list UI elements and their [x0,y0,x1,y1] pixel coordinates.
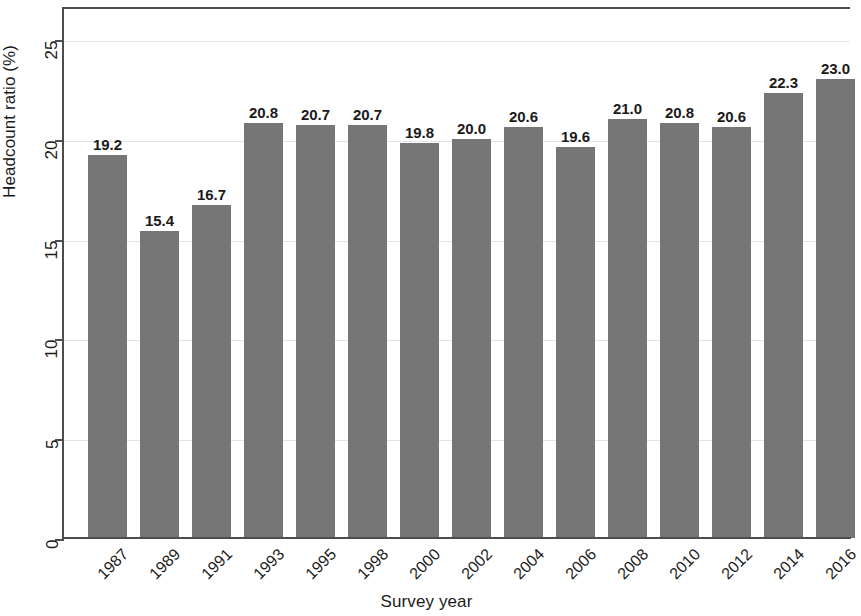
bar [816,79,855,538]
bar [504,127,543,538]
y-axis-title: Headcount ratio (%) [0,0,24,198]
bar [296,125,335,538]
bar-value-label: 23.0 [810,61,861,76]
bar-value-label: 22.3 [758,75,809,90]
gridline-y-25 [64,41,850,42]
bar-value-label: 20.6 [498,109,549,124]
y-tick-label: 10 [44,340,61,359]
bar-value-label: 19.8 [394,125,445,140]
y-tick-label: 25 [44,40,61,59]
bar-value-label: 15.4 [134,213,185,228]
bar-value-label: 20.8 [654,105,705,120]
bar [712,127,751,538]
x-axis-title: Survey year [0,592,853,612]
bar-value-label: 20.7 [342,107,393,122]
y-tick-label: 0 [44,540,61,549]
bar-value-label: 20.0 [446,121,497,136]
bar [660,123,699,538]
bar-value-label: 19.2 [82,137,133,152]
y-tick-label: 15 [44,240,61,259]
bar-value-label: 19.6 [550,129,601,144]
bar [88,155,127,538]
bar [764,93,803,538]
bar-value-label: 20.8 [238,105,289,120]
bar [140,231,179,538]
bar-value-label: 20.7 [290,107,341,122]
bar-value-label: 20.6 [706,109,757,124]
y-tick-label: 20 [44,140,61,159]
bar [608,119,647,538]
plot-area: 0510152025 19.215.416.720.820.720.719.82… [62,7,850,538]
bar-value-label: 16.7 [186,187,237,202]
bar [192,205,231,538]
bar [556,147,595,538]
x-axis-line [62,537,851,539]
y-tick-label: 5 [44,440,61,449]
bar [244,123,283,538]
bar [348,125,387,538]
bar [452,139,491,538]
bar [400,143,439,538]
bar-value-label: 21.0 [602,101,653,116]
